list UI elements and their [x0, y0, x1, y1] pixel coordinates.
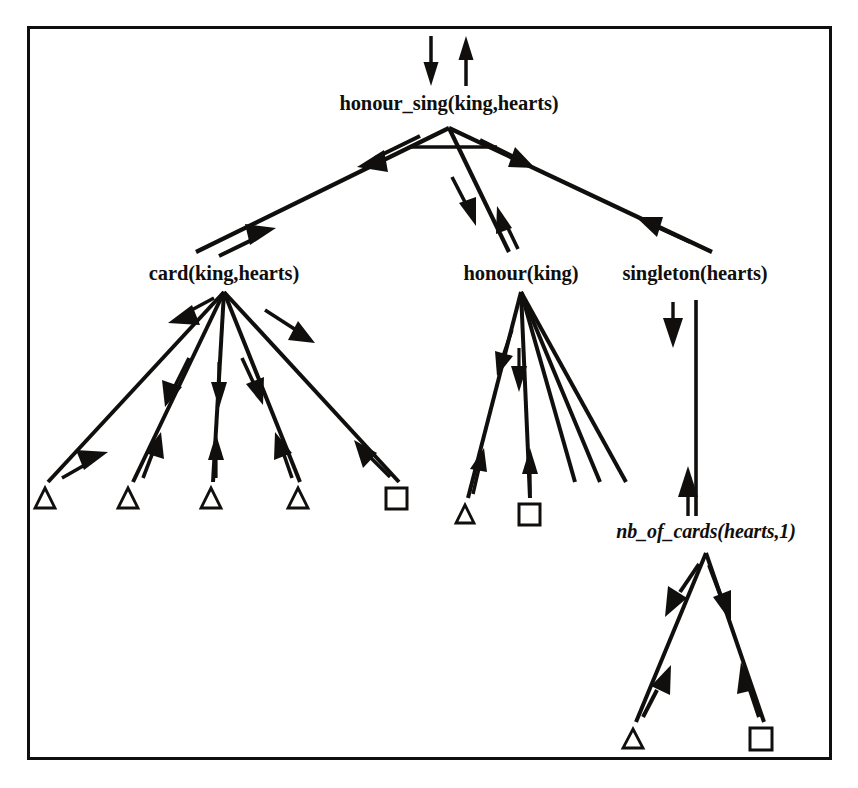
node-label-honour: honour(king): [463, 263, 578, 284]
diagram-canvas: honour_sing(king,hearts) card(king,heart…: [0, 0, 858, 788]
node-label-singleton: singleton(hearts): [622, 263, 767, 284]
node-label-card: card(king,hearts): [149, 263, 299, 284]
diagram-frame-border: [27, 26, 832, 760]
node-label-nb-of-cards: nb_of_cards(hearts,1): [616, 521, 796, 541]
node-label-root: honour_sing(king,hearts): [339, 93, 558, 114]
